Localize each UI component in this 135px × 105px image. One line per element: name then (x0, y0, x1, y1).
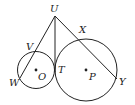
label-w: W (9, 77, 20, 88)
label-y: Y (119, 76, 127, 87)
center-dot-p (85, 69, 88, 72)
center-dot-o (35, 69, 38, 72)
label-p: P (88, 71, 96, 82)
label-t: T (58, 64, 66, 75)
label-v: V (26, 41, 35, 52)
label-u: U (50, 3, 59, 14)
label-x: X (78, 24, 87, 35)
label-o: O (38, 71, 46, 82)
geometry-diagram: U V W O T P X Y (0, 0, 135, 105)
